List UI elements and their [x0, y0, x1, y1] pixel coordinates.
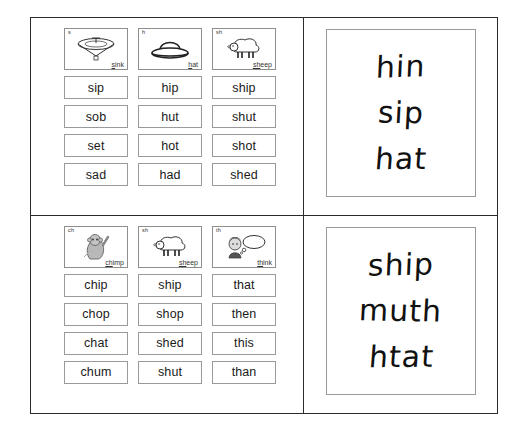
word-card[interactable]: that: [212, 274, 276, 297]
word-card[interactable]: hot: [138, 134, 202, 157]
picture-card-hat[interactable]: h hat: [138, 28, 202, 70]
worksheet-row-top: s sink h: [31, 18, 497, 216]
picture-card-word: hat: [188, 61, 198, 68]
word-card[interactable]: sad: [64, 163, 128, 186]
picture-card-word: sink: [112, 61, 124, 68]
picture-card-word: think: [257, 259, 272, 266]
hat-icon: [139, 31, 201, 65]
handwritten-word: muth: [359, 295, 444, 326]
handwritten-word: sip: [377, 98, 425, 129]
worksheet-row-bottom: ch chimp: [31, 216, 497, 414]
handwritten-word: htat: [367, 341, 434, 372]
word-card[interactable]: chip: [64, 274, 128, 297]
word-card[interactable]: hip: [138, 76, 202, 99]
word-card[interactable]: chop: [64, 303, 128, 326]
picture-card-sheep[interactable]: sh sheep: [212, 28, 276, 70]
chimp-icon: [65, 229, 127, 263]
word-card[interactable]: hut: [138, 105, 202, 128]
word-card[interactable]: ship: [212, 76, 276, 99]
quadrant-bottom-left: ch chimp: [31, 216, 304, 414]
word-card[interactable]: shut: [138, 361, 202, 384]
word-card[interactable]: chum: [64, 361, 128, 384]
picture-card-word: sheep: [253, 61, 272, 68]
picture-card-word: chimp: [105, 259, 124, 266]
picture-card-think[interactable]: th think: [212, 226, 276, 268]
word-card[interactable]: had: [138, 163, 202, 186]
word-card[interactable]: shut: [212, 105, 276, 128]
handwriting-box-bottom[interactable]: ship muth htat: [326, 227, 476, 395]
handwritten-word: ship: [367, 249, 434, 281]
picture-card-sheep[interactable]: sh sheep: [138, 226, 202, 268]
handwriting-box-top[interactable]: hin sip hat: [326, 29, 476, 197]
word-card[interactable]: shed: [138, 332, 202, 355]
sheep-icon: [139, 229, 201, 263]
word-card[interactable]: shop: [138, 303, 202, 326]
word-card[interactable]: shot: [212, 134, 276, 157]
word-card[interactable]: set: [64, 134, 128, 157]
picture-card-chimp[interactable]: ch chimp: [64, 226, 128, 268]
quadrant-bottom-right: ship muth htat: [304, 216, 495, 414]
picture-card-sink[interactable]: s sink: [64, 28, 128, 70]
worksheet-frame: s sink h: [30, 17, 498, 414]
card-grid-top-left: s sink h: [64, 28, 276, 186]
word-card[interactable]: chat: [64, 332, 128, 355]
word-card[interactable]: then: [212, 303, 276, 326]
word-card[interactable]: ship: [138, 274, 202, 297]
handwritten-word: hin: [376, 51, 427, 82]
word-card[interactable]: this: [212, 332, 276, 355]
picture-card-word: sheep: [179, 259, 198, 266]
think-icon: [213, 229, 275, 263]
handwritten-word: hat: [374, 144, 429, 174]
word-card[interactable]: sob: [64, 105, 128, 128]
card-grid-bottom-left: ch chimp: [64, 226, 276, 384]
word-card[interactable]: shed: [212, 163, 276, 186]
word-card[interactable]: than: [212, 361, 276, 384]
quadrant-top-left: s sink h: [31, 18, 304, 215]
word-card[interactable]: sip: [64, 76, 128, 99]
quadrant-top-right: hin sip hat: [304, 18, 495, 215]
sink-icon: [65, 31, 127, 65]
sheep-icon: [213, 31, 275, 65]
